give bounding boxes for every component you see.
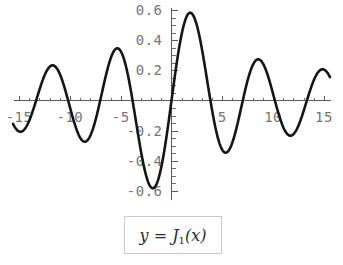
plot-area: -15-10-551015 0.60.40.2-0.2-0.4-0.6 xyxy=(0,0,343,210)
caption-box: y = J1(x) xyxy=(124,216,222,254)
x-tick-label: 5 xyxy=(218,109,227,125)
y-tick-label: 0.2 xyxy=(136,62,163,78)
y-tick-label: -0.2 xyxy=(127,123,163,139)
caption-y: y xyxy=(140,226,149,245)
y-axis xyxy=(172,8,178,200)
caption-equals: = xyxy=(154,226,167,245)
x-tick-label: 15 xyxy=(315,109,333,125)
bessel-function-figure: -15-10-551015 0.60.40.2-0.2-0.4-0.6 y = … xyxy=(0,0,343,265)
caption-argument: (x) xyxy=(185,226,207,245)
plot-svg: -15-10-551015 0.60.40.2-0.2-0.4-0.6 xyxy=(0,0,343,210)
caption-order: 1 xyxy=(179,235,185,246)
y-tick-label: 0.6 xyxy=(136,2,163,18)
caption-equation: y = J1(x) xyxy=(140,226,207,245)
y-tick-label: 0.4 xyxy=(136,32,163,48)
caption-function: J xyxy=(172,226,178,245)
